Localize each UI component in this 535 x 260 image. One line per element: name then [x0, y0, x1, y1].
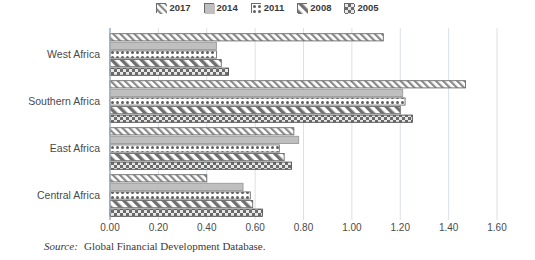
- bar-2005-east-africa[interactable]: [110, 162, 291, 169]
- bar-2005-west-africa[interactable]: [110, 68, 229, 75]
- figure-container: 20172014201120082005: [0, 0, 535, 260]
- category-label-central-africa: Central Africa: [2, 189, 100, 201]
- bar-2011-southern-africa[interactable]: [110, 98, 405, 105]
- category-label-east-africa: East Africa: [2, 142, 100, 154]
- x-tick-label: 1.00: [342, 222, 361, 233]
- x-tick-label: 1.60: [487, 222, 506, 233]
- x-tick-label: 1.20: [391, 222, 410, 233]
- bar-2017-southern-africa[interactable]: [110, 81, 466, 88]
- source-text: Global Financial Development Database.: [84, 240, 265, 252]
- bar-2011-central-africa[interactable]: [110, 192, 250, 199]
- category-axis-labels: West AfricaSouthern AfricaEast AfricaCen…: [0, 0, 100, 260]
- bar-2005-central-africa[interactable]: [110, 209, 262, 216]
- x-tick-label: 0.40: [197, 222, 216, 233]
- x-tick-label: 0.00: [100, 222, 119, 233]
- bar-2017-west-africa[interactable]: [110, 34, 383, 41]
- category-label-southern-africa: Southern Africa: [2, 95, 100, 107]
- bar-2014-west-africa[interactable]: [110, 42, 216, 49]
- source-note: Source: Global Financial Development Dat…: [44, 240, 265, 252]
- category-label-west-africa: West Africa: [2, 48, 100, 60]
- bar-2008-southern-africa[interactable]: [110, 107, 400, 114]
- bar-2005-southern-africa[interactable]: [110, 115, 412, 122]
- bar-2008-west-africa[interactable]: [110, 60, 221, 67]
- bar-2017-central-africa[interactable]: [110, 175, 207, 182]
- bar-2008-central-africa[interactable]: [110, 201, 253, 208]
- x-tick-label: 0.80: [294, 222, 313, 233]
- x-tick-label: 0.20: [149, 222, 168, 233]
- bar-2017-east-africa[interactable]: [110, 128, 294, 135]
- bar-2014-southern-africa[interactable]: [110, 89, 403, 96]
- bar-2011-east-africa[interactable]: [110, 145, 279, 152]
- bar-2011-west-africa[interactable]: [110, 51, 216, 58]
- bar-series-group: [110, 34, 466, 217]
- bar-2014-central-africa[interactable]: [110, 183, 243, 190]
- bar-2014-east-africa[interactable]: [110, 136, 299, 143]
- bar-2008-east-africa[interactable]: [110, 154, 284, 161]
- x-tick-label: 1.40: [439, 222, 458, 233]
- source-label: Source:: [44, 240, 84, 252]
- x-tick-label: 0.60: [245, 222, 264, 233]
- value-axis-tick-labels: 0.000.200.400.600.801.001.201.401.60: [0, 222, 535, 238]
